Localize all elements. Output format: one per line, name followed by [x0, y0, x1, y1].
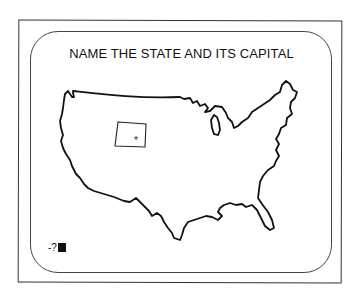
capital-marker: * — [134, 135, 138, 146]
input-prompt[interactable]: -? — [48, 242, 66, 253]
highlighted-state-wyoming — [115, 122, 146, 147]
us-map: * — [0, 0, 363, 299]
prompt-text: -? — [48, 242, 57, 253]
michigan-peninsula — [211, 115, 220, 135]
us-outline — [60, 81, 297, 240]
block-cursor — [58, 243, 66, 252]
